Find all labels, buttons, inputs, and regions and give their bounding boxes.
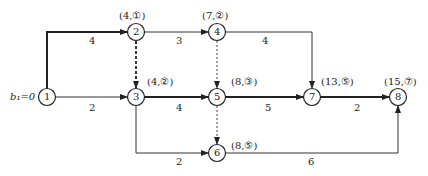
edge-5-7-weight: 5	[265, 103, 271, 113]
node-8-mark: (15,⑦)	[384, 77, 417, 87]
edge-3-6	[136, 106, 208, 153]
node-6-number: 6	[214, 148, 220, 158]
edge-7-8-weight: 2	[354, 103, 360, 113]
node-4-mark: (7,②)	[202, 11, 228, 21]
edge-3-5-weight: 4	[176, 103, 182, 113]
edge-3-6-weight: 2	[176, 157, 182, 167]
node-8-number: 8	[395, 92, 401, 102]
node-4-number: 4	[214, 27, 220, 37]
edge-1-2-weight: 4	[89, 36, 95, 46]
node-2-mark: (4,①)	[119, 11, 145, 21]
node-5-number: 5	[214, 92, 220, 102]
edge-4-7-weight: 4	[262, 36, 268, 46]
node-1-number: 1	[44, 92, 50, 102]
node-3-number: 3	[133, 92, 139, 102]
edge-2-4-weight: 3	[176, 36, 182, 46]
node-7-mark: (13,⑤)	[321, 77, 354, 87]
node-6-mark: (8,⑤)	[231, 141, 257, 151]
node-3-mark: (4,②)	[147, 77, 173, 87]
node-7-number: 7	[309, 92, 315, 102]
node-2-number: 2	[133, 27, 139, 37]
edge-1-3-weight: 2	[89, 103, 95, 113]
edge-1-2	[47, 32, 127, 88]
network-diagram: 1 2 3 4 5 6 7 8 b₁=0 (4,①) (4,②) (7,②) (…	[0, 0, 428, 176]
start-label: b₁=0	[10, 92, 35, 102]
edge-6-8-weight: 6	[308, 157, 314, 167]
node-5-mark: (8,③)	[231, 77, 257, 87]
